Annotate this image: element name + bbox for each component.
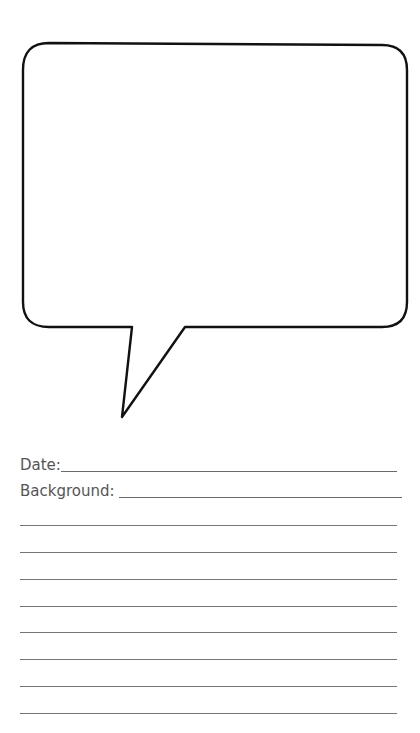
writing-line[interactable]: [20, 659, 397, 660]
date-field[interactable]: Date:: [20, 453, 397, 475]
background-field[interactable]: Background:: [20, 479, 402, 501]
background-label: Background:: [20, 482, 119, 501]
writing-line[interactable]: [20, 606, 397, 607]
writing-line[interactable]: [20, 552, 397, 553]
writing-line[interactable]: [20, 713, 397, 714]
writing-line[interactable]: [20, 525, 397, 526]
speech-bubble: [0, 0, 420, 430]
writing-line[interactable]: [20, 686, 397, 687]
writing-line[interactable]: [20, 632, 397, 633]
background-blank-line[interactable]: [119, 497, 402, 498]
speech-bubble-icon: [0, 0, 420, 430]
date-blank-line[interactable]: [61, 471, 397, 472]
writing-line[interactable]: [20, 579, 397, 580]
date-label: Date:: [20, 456, 61, 475]
